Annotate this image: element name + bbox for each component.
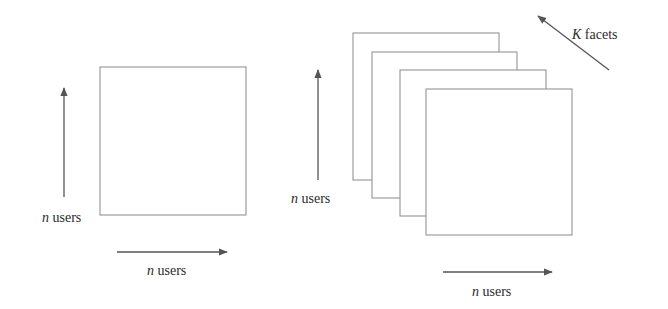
- depth-arrow: [538, 16, 609, 70]
- right-panel: n users n users K facets: [291, 16, 618, 299]
- left-horizontal-label: n users: [147, 263, 186, 278]
- diagram-canvas: n users n users n users n users K facets: [0, 0, 668, 309]
- left-panel: n users n users: [42, 67, 246, 278]
- right-horizontal-label: n users: [472, 284, 511, 299]
- facet-matrix-4: [426, 89, 572, 235]
- single-matrix: [100, 67, 246, 215]
- right-vertical-label: n users: [291, 191, 330, 206]
- left-vertical-label: n users: [42, 210, 81, 225]
- depth-label: K facets: [571, 27, 618, 42]
